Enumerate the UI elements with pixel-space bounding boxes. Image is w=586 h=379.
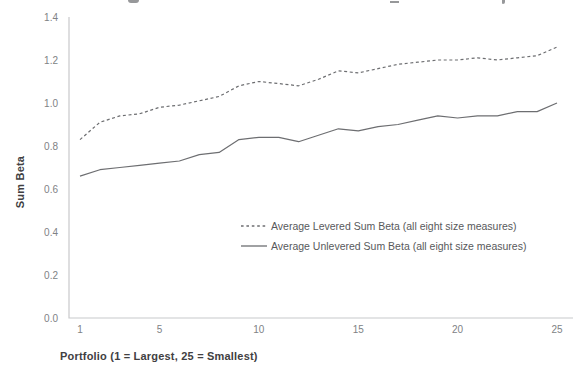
legend-item-unlevered: Average Unlevered Sum Beta (all eight si…	[240, 239, 526, 253]
legend: Average Levered Sum Beta (all eight size…	[240, 219, 526, 259]
y-tick-label: 0.2	[44, 270, 58, 281]
x-tick-label: 1	[77, 324, 83, 335]
plot-area: 0.00.20.40.60.81.01.21.41510152025	[0, 0, 586, 379]
x-tick-label: 5	[157, 324, 163, 335]
unlevered-sum-beta-line	[80, 103, 557, 176]
y-axis-title: Sum Beta	[14, 156, 26, 208]
legend-item-levered: Average Levered Sum Beta (all eight size…	[240, 219, 526, 233]
x-tick-label: 25	[551, 324, 563, 335]
dashed-line-swatch	[240, 221, 267, 231]
x-tick-label: 10	[253, 324, 265, 335]
solid-line-swatch	[240, 241, 267, 251]
y-tick-label: 1.4	[44, 12, 58, 23]
beta-line-chart-figure: 0.00.20.40.60.81.01.21.41510152025 Sum B…	[0, 0, 586, 379]
x-axis-title: Portfolio (1 = Largest, 25 = Smallest)	[60, 350, 258, 362]
levered-sum-beta-line	[80, 47, 557, 140]
legend-label-unlevered: Average Unlevered Sum Beta (all eight si…	[271, 240, 526, 252]
y-tick-label: 0.0	[44, 313, 58, 324]
y-tick-label: 0.6	[44, 184, 58, 195]
x-tick-label: 15	[353, 324, 365, 335]
y-tick-label: 0.8	[44, 141, 58, 152]
y-tick-label: 0.4	[44, 227, 58, 238]
legend-label-levered: Average Levered Sum Beta (all eight size…	[271, 220, 517, 232]
x-tick-label: 20	[452, 324, 464, 335]
axis-frame	[69, 17, 573, 318]
y-tick-label: 1.0	[44, 98, 58, 109]
y-tick-label: 1.2	[44, 55, 58, 66]
